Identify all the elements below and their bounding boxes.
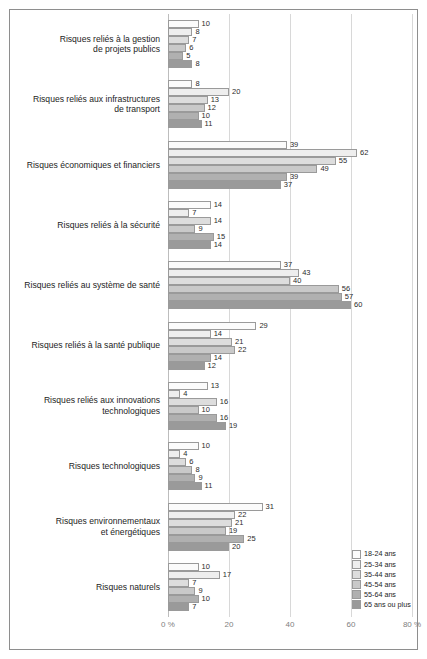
bar-row: 14 [168,330,412,338]
bar [168,450,180,458]
bar-row: 15 [168,233,412,241]
bar-value-label: 25 [244,535,255,543]
bar-row: 19 [168,527,412,535]
bar-row: 10 [168,406,412,414]
bar-value-label: 9 [195,225,202,233]
bar [168,354,211,362]
bar-row: 13 [168,96,412,104]
bar [168,466,192,474]
bar-value-label: 16 [217,414,228,422]
bar-value-label: 39 [287,141,298,149]
bar-row: 21 [168,338,412,346]
bar [168,233,214,241]
bar-value-label: 7 [189,603,196,611]
bar-row: 14 [168,241,412,249]
x-tick-label: 80 % [403,620,421,629]
legend-swatch [352,550,361,559]
bar [168,157,336,165]
x-tick-label: 40 [286,620,295,629]
bar [168,225,195,233]
bar [168,587,195,595]
legend-item: 65 ans ou plus [352,600,414,610]
bar-row: 22 [168,511,412,519]
bar-row: 43 [168,269,412,277]
category-label: Risques reliés au système de santé [8,280,160,291]
bar [168,346,235,354]
bar [168,543,229,551]
bar [168,96,208,104]
x-tick-label: 20 [225,620,234,629]
bar-value-label: 10 [199,442,210,450]
bar-row: 8 [168,60,412,68]
bar-value-label: 20 [229,543,240,551]
bar-value-label: 19 [226,527,237,535]
bar-row: 14 [168,217,412,225]
bar-group: 10468911 [168,436,412,496]
bar-row: 10 [168,20,412,28]
bar [168,149,357,157]
bar-value-label: 7 [189,579,196,587]
bar-row: 25 [168,535,412,543]
bar-value-label: 29 [256,322,267,330]
bar-row: 14 [168,201,412,209]
x-tick-label: 0 % [161,620,175,629]
legend-swatch [352,570,361,579]
bar-row: 6 [168,458,412,466]
bar [168,104,205,112]
bar [168,261,281,269]
bar [168,414,217,422]
bar [168,563,199,571]
bar-value-label: 9 [195,474,202,482]
legend-swatch [352,560,361,569]
plot-area: 1087658820131210113962554939371471491514… [168,14,412,617]
bar [168,458,186,466]
bar-group: 13416101619 [168,376,412,436]
bar [168,474,195,482]
bar [168,527,226,535]
bar-row: 14 [168,354,412,362]
bar-row: 29 [168,322,412,330]
bar-row: 21 [168,519,412,527]
bar-group: 374340565760 [168,255,412,315]
bar-value-label: 20 [229,89,240,97]
bar-row: 5 [168,52,412,60]
legend-label: 45-54 ans [364,581,396,588]
legend-item: 45-54 ans [352,580,414,590]
bar-value-label: 11 [202,482,213,490]
bar-value-label: 7 [189,209,196,217]
bar-row: 8 [168,28,412,36]
bar-row: 7 [168,209,412,217]
bar [168,503,263,511]
bar [168,181,281,189]
bar-value-label: 62 [357,149,368,157]
category-label: Risques reliés aux innovations technolog… [8,395,160,416]
bar-row: 11 [168,120,412,128]
bar-row: 56 [168,285,412,293]
category-label: Risques reliés à la sécurité [8,220,160,231]
bar-value-label: 37 [281,181,292,189]
bar-row: 22 [168,346,412,354]
bar-row: 57 [168,293,412,301]
bar [168,285,339,293]
chart-legend: 18-24 ans25-34 ans35-44 ans45-54 ans55-6… [352,549,414,610]
bar [168,482,202,490]
bar-value-label: 14 [211,201,222,209]
bar-row: 60 [168,301,412,309]
bar-value-label: 6 [186,458,193,466]
bar-value-label: 12 [205,362,216,370]
bar-row: 10 [168,442,412,450]
bar-row: 4 [168,390,412,398]
bar [168,322,256,330]
bar-value-label: 10 [199,595,210,603]
bar [168,519,232,527]
bar-row: 13 [168,382,412,390]
category-label: Risques technologiques [8,461,160,472]
bar-group: 1471491514 [168,195,412,255]
bar [168,511,235,519]
bar-row: 31 [168,503,412,511]
bar [168,28,192,36]
category-axis: Risques reliés à la gestion de projets p… [8,14,160,617]
legend-label: 55-64 ans [364,591,396,598]
legend-label: 18-24 ans [364,550,396,557]
bar [168,60,192,68]
